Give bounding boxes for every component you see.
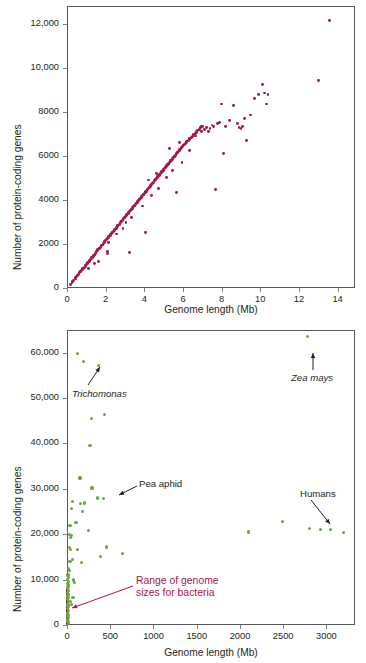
data-point — [93, 262, 96, 265]
x-tick-mark — [144, 288, 145, 292]
y-tick-mark — [63, 244, 67, 245]
data-point — [171, 169, 174, 172]
data-point — [261, 83, 264, 86]
y-tick-label: 6000 — [5, 150, 59, 160]
data-point — [212, 125, 215, 128]
x-tick-mark — [67, 288, 68, 292]
y-tick-label: 0 — [5, 282, 59, 292]
data-point — [224, 125, 227, 128]
data-point — [207, 130, 210, 133]
data-point — [188, 149, 191, 152]
x-tick-label: 14 — [313, 294, 363, 304]
y-tick-label: 4000 — [5, 194, 59, 204]
data-point — [241, 125, 244, 128]
arrow-bacteria-range — [0, 320, 366, 663]
data-point — [175, 191, 178, 194]
x-tick-mark — [183, 288, 184, 292]
data-point — [178, 141, 181, 144]
data-point — [236, 122, 239, 125]
plot-area-bacteria — [67, 6, 355, 288]
panel-bacteria: Bacteria Number of protein-coding genes … — [0, 0, 366, 320]
data-point — [253, 97, 256, 100]
y-tick-mark — [63, 112, 67, 113]
data-point — [228, 119, 231, 122]
y-tick-mark — [63, 200, 67, 201]
data-point — [205, 126, 208, 129]
x-axis-label-bacteria: Genome length (Mb) — [67, 304, 355, 315]
data-point — [200, 130, 203, 133]
x-tick-mark — [260, 288, 261, 292]
y-tick-mark — [63, 156, 67, 157]
data-point — [257, 93, 260, 96]
genome-size-figure: Bacteria Number of protein-coding genes … — [0, 0, 366, 663]
panel-eukaryotes: Eukaryotes Number of protein-coding gene… — [0, 320, 366, 663]
y-tick-mark — [63, 24, 67, 25]
x-tick-mark — [338, 288, 339, 292]
data-point — [232, 104, 235, 107]
y-tick-label: 12,000 — [5, 18, 59, 28]
x-tick-mark — [106, 288, 107, 292]
x-tick-mark — [222, 288, 223, 292]
y-tick-mark — [63, 68, 67, 69]
y-tick-label: 2000 — [5, 238, 59, 248]
y-tick-label: 10,000 — [5, 62, 59, 72]
x-tick-mark — [299, 288, 300, 292]
y-tick-label: 8000 — [5, 106, 59, 116]
